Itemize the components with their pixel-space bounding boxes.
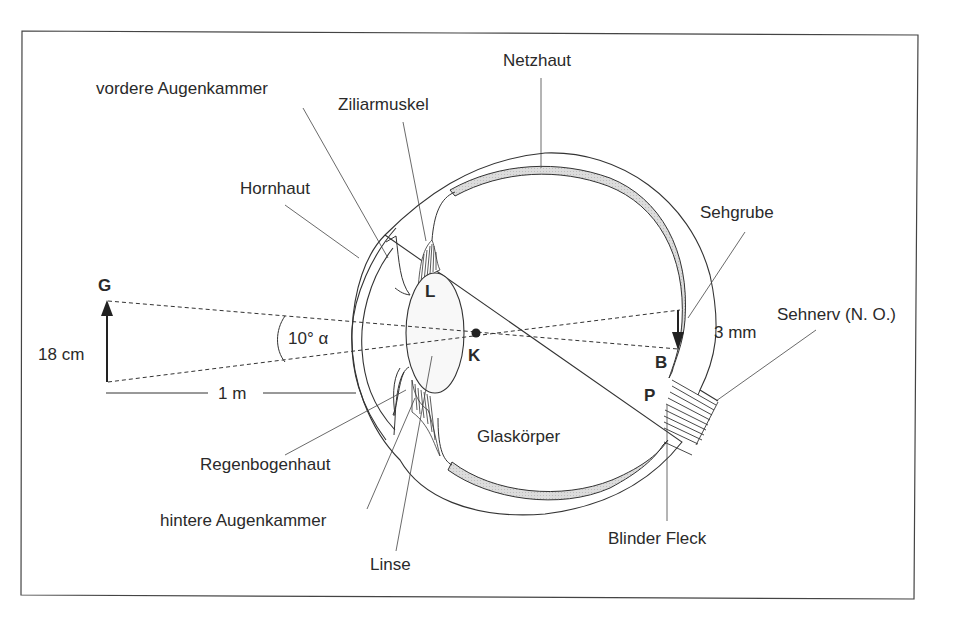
- choroid-upper: [432, 192, 455, 240]
- label-sehgrube: Sehgrube: [700, 204, 774, 221]
- label-regenbogenhaut: Regenbogenhaut: [200, 456, 330, 473]
- label-blinder-fleck: Blinder Fleck: [608, 530, 706, 547]
- leader-lines: [285, 78, 816, 551]
- measure-distance: 1 m: [218, 385, 246, 402]
- label-sehnerv: Sehnerv (N. O.): [777, 306, 896, 323]
- image-arrow-head: [672, 332, 684, 350]
- measure-object-height: 18 cm: [38, 346, 84, 363]
- nodal-point: [472, 329, 481, 338]
- label-linse: Linse: [370, 556, 411, 573]
- angle-arc: [278, 316, 286, 362]
- iris-upper: [386, 236, 410, 295]
- point-b: B: [655, 354, 667, 371]
- point-k: K: [468, 347, 480, 364]
- point-g: G: [98, 277, 111, 294]
- label-hintere-augenkammer: hintere Augenkammer: [160, 512, 326, 529]
- choroid-lower: [438, 418, 452, 465]
- label-vordere-augenkammer: vordere Augenkammer: [96, 80, 268, 97]
- optic-nerve: [664, 380, 718, 455]
- label-hornhaut: Hornhaut: [240, 180, 310, 197]
- cornea: [362, 248, 395, 430]
- measure-angle: 10° α: [288, 330, 328, 347]
- point-p: P: [644, 387, 655, 404]
- retina: [450, 166, 686, 378]
- measure-image-height: 3 mm: [714, 324, 757, 341]
- label-ziliarmuskel: Ziliarmuskel: [338, 96, 429, 113]
- label-netzhaut: Netzhaut: [503, 52, 571, 69]
- point-l: L: [425, 283, 435, 300]
- sclera-optic-notch: [698, 390, 700, 395]
- object-arrow-head: [101, 300, 113, 316]
- label-glaskoerper: Glaskörper: [477, 428, 560, 445]
- light-rays: [108, 301, 680, 382]
- cornea-outer: [352, 228, 396, 440]
- eye-diagram: vordere Augenkammer Ziliarmuskel Netzhau…: [0, 0, 960, 619]
- retina-lower: [448, 440, 668, 500]
